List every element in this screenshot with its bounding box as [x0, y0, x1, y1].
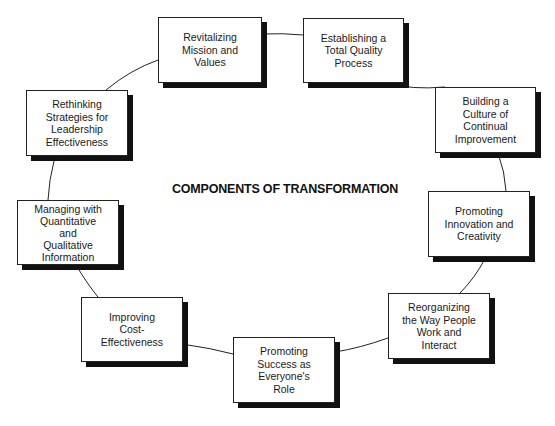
transformation-cycle-diagram: COMPONENTS OF TRANSFORMATION Revitalizin… [0, 0, 555, 426]
node-improving: Improving Cost- Effectiveness [81, 297, 183, 362]
edge-revitalizing-establishing [262, 34, 303, 35]
node-promoting-success: Promoting Success as Everyone's Role [233, 337, 335, 403]
node-promoting-innovation: Promoting Innovation and Creativity [428, 191, 530, 257]
node-rethinking: Rethinking Strategies for Leadership Eff… [26, 90, 128, 156]
edge-rethinking-revitalizing [106, 60, 158, 90]
diagram-title: COMPONENTS OF TRANSFORMATION [172, 182, 398, 196]
node-revitalizing: Revitalizing Mission and Values [158, 17, 262, 83]
node-establishing: Establishing a Total Quality Process [303, 18, 404, 83]
edge-improving-managing [76, 265, 98, 297]
edge-managing-rethinking [48, 161, 54, 200]
node-reorganizing: Reorganizing the Way People Work and Int… [388, 293, 490, 359]
edge-building-promoting-innovation [498, 153, 506, 191]
node-building: Building a Culture of Continual Improvem… [435, 87, 536, 153]
edge-promoting-innovation-reorganizing [460, 257, 486, 293]
edge-reorganizing-promoting-success [335, 338, 388, 352]
node-managing: Managing with Quantitative and Qualitati… [17, 200, 119, 265]
edge-promoting-success-improving [188, 345, 233, 354]
